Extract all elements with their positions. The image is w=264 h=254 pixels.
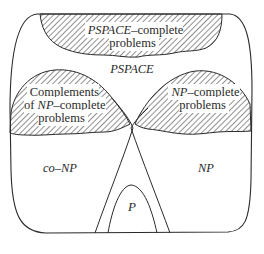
np-complete-label: NP–complete problems (166, 86, 242, 112)
co-np-complete-label-line1: Complements (30, 85, 99, 99)
pspace-complete-label: PSPACE–complete problems (80, 24, 188, 50)
pspace-complete-label-line2: problems (109, 36, 156, 50)
p-label: P (122, 200, 142, 214)
pspace-complete-label-rest: –complete (131, 23, 183, 37)
np-label: NP (188, 162, 224, 175)
co-np-complete-label-prefix: of (24, 98, 38, 112)
np-complete-label-line2: problems (179, 98, 226, 112)
co-np-complete-label-line3: problems (38, 111, 85, 125)
pspace-complete-label-italic: PSPACE (88, 23, 132, 37)
pspace-label: PSPACE (100, 63, 164, 76)
co-np-label: co–NP (40, 162, 80, 175)
pspace-complete-label-box: PSPACE–complete problems (85, 22, 184, 51)
co-np-complete-label-box: Complements of NP–complete problems (24, 84, 106, 126)
co-np-complete-label: Complements of NP–complete problems (24, 86, 102, 125)
np-complete-label-italic: NP (171, 85, 187, 99)
np-complete-label-box: NP–complete problems (168, 84, 239, 113)
np-complete-label-rest: –complete (187, 85, 239, 99)
